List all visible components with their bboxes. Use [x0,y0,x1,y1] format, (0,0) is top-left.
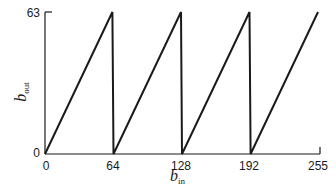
y-tick-63: 63 [27,6,41,20]
x-axis-label-sub: in [178,176,186,186]
x-tick-64: 64 [106,159,120,173]
x-tick-0: 0 [43,159,50,173]
y-axis-label: bout [12,82,31,102]
y-axis-label-sub: out [21,82,31,94]
x-axis-label-main: b [170,167,178,184]
x-tick-192: 192 [239,159,259,173]
x-tick-255: 255 [308,159,328,173]
sawtooth-line [45,12,318,154]
y-tick-0: 0 [33,146,40,160]
sawtooth-chart: 63 0 0 64 128 192 255 bin bout [0,0,336,189]
y-axis-label-main: b [12,94,29,102]
